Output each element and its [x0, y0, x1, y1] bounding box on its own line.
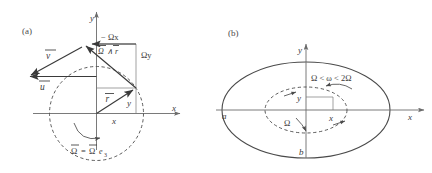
panel-a-vector-v: [31, 47, 82, 75]
panel-a-minus-omega-x-label: − Ωx: [101, 32, 119, 42]
panel-a-omega-def-rhs: Ω: [89, 146, 95, 156]
panel-b-omega-small-arrow: [296, 118, 306, 131]
panel-a-omega-y-label: Ωy: [141, 50, 152, 60]
panel-a-cross-product-rest: ∧ r: [107, 47, 119, 56]
panel-b-y-axis-label: y: [297, 45, 302, 55]
panel-b-semi-major-label: a: [222, 111, 227, 121]
panel-a-omega-def-basis: e: [99, 147, 103, 156]
panel-a-omega-def-lhs: Ω: [71, 146, 77, 156]
panel-a: (a) x y r: [22, 12, 180, 161]
panel-b-omega-label: Ω: [284, 118, 290, 128]
svg-text:u: u: [40, 82, 45, 92]
panel-b-semi-minor-label: b: [299, 147, 304, 157]
panel-b-inner-arrow-upper-left: [284, 92, 296, 96]
panel-a-omega-def-eq: =: [81, 146, 86, 156]
panel-a-cross-product-omega: Ω: [98, 47, 104, 56]
panel-a-vector-u-label: u: [39, 81, 50, 92]
panel-a-y-component-label: y: [126, 98, 131, 108]
panel-b-inner-x-label: x: [328, 113, 333, 123]
panel-a-cross-product-label: Ω ∧ r: [98, 46, 119, 56]
panel-a-tag: (a): [22, 26, 32, 36]
figure-root: (a) x y r: [0, 0, 432, 173]
svg-text:v: v: [46, 51, 51, 61]
panel-b-x-axis-label: x: [407, 112, 412, 122]
panel-b-tag: (b): [228, 28, 239, 38]
panel-b-inner-y-label: y: [296, 93, 301, 103]
panel-b-omega-rotation-arrow: [326, 84, 352, 89]
panel-a-omega-def-basis-sub: 3: [104, 152, 107, 158]
panel-a-vector-v-label: v: [45, 50, 56, 61]
panel-a-y-axis-label: y: [89, 13, 94, 23]
panel-b-inner-arrow-lower-right: [333, 121, 345, 125]
panel-a-x-axis-label: x: [171, 103, 176, 113]
panel-a-omega-definition: Ω = Ω e 3: [71, 145, 107, 158]
panel-a-x-component-label: x: [111, 116, 116, 126]
panel-b-inequality-label: Ω < ω < 2Ω: [311, 73, 352, 83]
physics-figure-svg: (a) x y r: [0, 0, 432, 173]
svg-text:r: r: [106, 94, 110, 104]
panel-b: (b) x y a b y x Ω < ω < 2Ω Ω: [216, 28, 424, 158]
